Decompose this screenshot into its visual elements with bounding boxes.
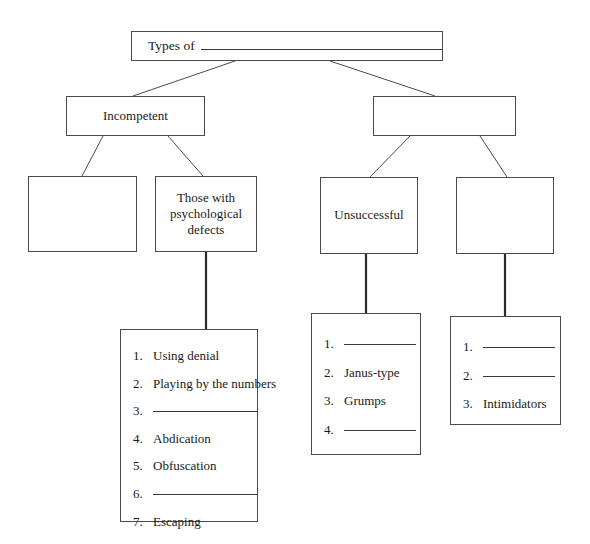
list-item-number: 4.: [133, 431, 153, 447]
list-box-psychological-defects[interactable]: 1. Using denial 2. Playing by the number…: [120, 329, 258, 522]
list-item-blank-line[interactable]: [483, 375, 555, 377]
list-item[interactable]: 3.: [133, 403, 257, 419]
list-item-blank-line[interactable]: [153, 493, 257, 495]
list-item-number: 3.: [463, 396, 483, 412]
list-item-blank-line[interactable]: [344, 429, 416, 431]
list-item-blank-line[interactable]: [153, 410, 257, 412]
node-psychological-defects-label: Those with psychological defects: [156, 190, 256, 239]
list-item-number: 3.: [133, 403, 153, 419]
list-box-unsuccessful[interactable]: 1. 2. Janus-type 3. Grumps 4.: [311, 313, 421, 455]
list-item-text: Intimidators: [483, 396, 547, 412]
list-item-number: 1.: [324, 336, 344, 352]
connector-lines: [0, 0, 590, 544]
list-item-number: 2.: [463, 368, 483, 384]
list-item-text: Playing by the numbers: [153, 376, 276, 392]
node-psychological-defects[interactable]: Those with psychological defects: [155, 176, 257, 252]
list-item-number: 4.: [324, 422, 344, 438]
list-item-text: Using denial: [153, 348, 219, 364]
node-incompetent-label: Incompetent: [97, 108, 174, 124]
diagram-canvas: Types of Incompetent Those with psycholo…: [0, 0, 590, 544]
list-item[interactable]: 1. Using denial: [133, 348, 257, 364]
list-item[interactable]: 3. Grumps: [324, 393, 420, 409]
node-unsuccessful-label: Unsuccessful: [328, 207, 409, 223]
list-item-number: 2.: [133, 376, 153, 392]
list-item[interactable]: 4. Abdication: [133, 431, 257, 447]
list-item[interactable]: 2. Playing by the numbers: [133, 376, 257, 392]
list-item[interactable]: 5. Obfuscation: [133, 458, 257, 474]
list-item[interactable]: 1.: [324, 336, 420, 352]
list-item-text: Obfuscation: [153, 458, 217, 474]
node-level2-blank[interactable]: [373, 96, 516, 136]
list-item-number: 2.: [324, 365, 344, 381]
list-right: 1. 2. 3. Intimidators: [463, 339, 560, 412]
list-item-text: Janus-type: [344, 365, 400, 381]
list-item-number: 7.: [133, 514, 153, 530]
list-item[interactable]: 7. Escaping: [133, 514, 257, 530]
list-item-text: Grumps: [344, 393, 386, 409]
root-blank-line[interactable]: [201, 48, 442, 50]
list-item-blank-line[interactable]: [483, 346, 555, 348]
list-item[interactable]: 3. Intimidators: [463, 396, 560, 412]
list-item-text: Abdication: [153, 431, 211, 447]
list-item[interactable]: 6.: [133, 486, 257, 502]
list-item[interactable]: 2.: [463, 368, 560, 384]
list-item-number: 6.: [133, 486, 153, 502]
list-item[interactable]: 2. Janus-type: [324, 365, 420, 381]
root-label: Types of: [148, 38, 195, 54]
list-item-number: 3.: [324, 393, 344, 409]
list-item-number: 1.: [463, 339, 483, 355]
node-level3-blank-right[interactable]: [456, 177, 554, 254]
list-item-blank-line[interactable]: [344, 343, 416, 345]
list-item[interactable]: 1.: [463, 339, 560, 355]
list-box-right[interactable]: 1. 2. 3. Intimidators: [450, 316, 561, 425]
list-unsuccessful: 1. 2. Janus-type 3. Grumps 4.: [324, 336, 420, 437]
list-item-number: 5.: [133, 458, 153, 474]
list-item-number: 1.: [133, 348, 153, 364]
list-item-text: Escaping: [153, 514, 201, 530]
node-incompetent[interactable]: Incompetent: [66, 96, 205, 136]
node-unsuccessful[interactable]: Unsuccessful: [320, 177, 418, 254]
node-level3-blank-left[interactable]: [28, 176, 137, 252]
list-item[interactable]: 4.: [324, 422, 420, 438]
root-node-types-of[interactable]: Types of: [131, 31, 443, 61]
list-psychological-defects: 1. Using denial 2. Playing by the number…: [133, 348, 257, 529]
